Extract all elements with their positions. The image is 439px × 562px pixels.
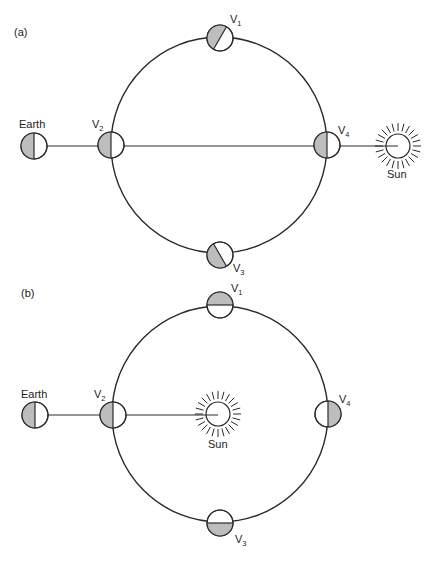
v4-label-b: V4 [339,393,351,408]
venus-v4-a [314,132,340,158]
sun-icon-b [195,391,241,437]
v3-label-b: V3 [235,533,247,548]
earth-label-b: Earth [21,388,47,400]
v1-label-b: V1 [231,282,243,297]
venus-v3-a [207,242,233,268]
v3-label-a: V3 [233,262,245,277]
venus-v4-b [315,401,341,427]
v2-label-b: V2 [94,388,106,403]
venus-v3-b [207,510,233,536]
venus-v2-b [100,402,126,428]
venus-orbit-a [111,37,327,253]
earth-a [21,133,47,159]
v1-label-a: V1 [230,13,242,28]
panel-a-label: (a) [14,26,27,38]
panel-a: (a) Earth V1 V2 [14,13,421,277]
venus-v1-a [207,25,233,51]
sun-label-a: Sun [387,168,407,180]
earth-b [22,402,48,428]
earth-label-a: Earth [19,118,45,130]
v4-label-a: V4 [338,124,350,139]
venus-phases-diagram: (a) Earth V1 V2 [0,0,439,562]
venus-v2-a [98,132,124,158]
venus-v1-b [207,292,233,318]
v2-label-a: V2 [92,118,104,133]
panel-b: (b) Earth V1 V2 [21,282,351,548]
panel-b-label: (b) [21,287,34,299]
sun-label-b: Sun [208,438,228,450]
venus-orbit-b [112,306,328,522]
